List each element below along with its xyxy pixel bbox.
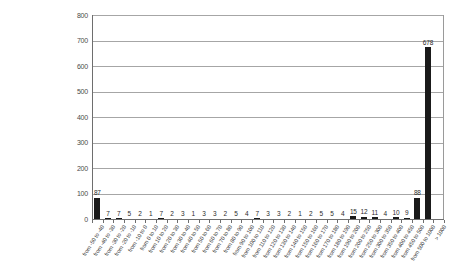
bar-slot: 11 bbox=[369, 15, 380, 220]
bar-value-label: 4 bbox=[384, 210, 387, 217]
x-tick-mark bbox=[391, 220, 392, 223]
bar-slot: 2 bbox=[305, 15, 316, 220]
x-tick-mark bbox=[327, 220, 328, 223]
bar-value-label: 5 bbox=[234, 210, 237, 217]
bar-slot: 15 bbox=[348, 15, 359, 220]
x-tick-mark bbox=[199, 220, 200, 223]
bar-value-label: 2 bbox=[309, 210, 312, 217]
x-axis-tick-labels: from -50 to -40from -40 to -30from -30 t… bbox=[92, 224, 444, 280]
bar-slot: 3 bbox=[209, 15, 220, 220]
bar-slot: 4 bbox=[380, 15, 391, 220]
y-tick-label-100: 100 bbox=[58, 190, 88, 197]
bar bbox=[94, 198, 100, 220]
bar-slot: 5 bbox=[231, 15, 242, 220]
x-tick-mark bbox=[359, 220, 360, 223]
x-tick-mark bbox=[124, 220, 125, 223]
y-tick-label-800: 800 bbox=[58, 12, 88, 19]
bar-slot: 7 bbox=[113, 15, 124, 220]
bars-layer: 8777521723133254733212554151211410988678 bbox=[92, 15, 444, 220]
y-tick-label-200: 200 bbox=[58, 165, 88, 172]
y-tick-label-300: 300 bbox=[58, 139, 88, 146]
bar-value-label: 1 bbox=[149, 210, 152, 217]
bar-slot: 1 bbox=[145, 15, 156, 220]
x-tick-mark bbox=[337, 220, 338, 223]
bar-value-label: 2 bbox=[224, 210, 227, 217]
x-tick-mark bbox=[177, 220, 178, 223]
bar-value-label: 5 bbox=[320, 210, 323, 217]
bar-value-label: 7 bbox=[106, 210, 109, 217]
bar-value-label: 3 bbox=[277, 210, 280, 217]
bar-value-label: 4 bbox=[245, 210, 248, 217]
histogram-chart: 8007006005004003002001000 87775217231332… bbox=[0, 0, 451, 280]
bar-value-label: 1 bbox=[298, 210, 301, 217]
bar-value-label: 3 bbox=[213, 210, 216, 217]
bar-value-label: 3 bbox=[181, 210, 184, 217]
bar-slot: 2 bbox=[135, 15, 146, 220]
x-tick-mark bbox=[209, 220, 210, 223]
bar-slot: 2 bbox=[220, 15, 231, 220]
x-tick-mark bbox=[92, 220, 93, 223]
y-tick-label-600: 600 bbox=[58, 63, 88, 70]
bar-value-label: 5 bbox=[128, 210, 131, 217]
x-tick-mark bbox=[305, 220, 306, 223]
bar-slot: 4 bbox=[241, 15, 252, 220]
bar-slot: 3 bbox=[177, 15, 188, 220]
y-tick-label-0: 0 bbox=[58, 216, 88, 223]
bar-slot: 3 bbox=[263, 15, 274, 220]
bar-slot: 7 bbox=[156, 15, 167, 220]
bar-slot: 5 bbox=[327, 15, 338, 220]
bar-slot: 88 bbox=[412, 15, 423, 220]
x-tick-mark bbox=[252, 220, 253, 223]
bar-slot: 5 bbox=[124, 15, 135, 220]
x-tick-mark bbox=[113, 220, 114, 223]
x-tick-mark bbox=[231, 220, 232, 223]
x-tick-mark bbox=[156, 220, 157, 223]
x-tick-mark bbox=[444, 220, 445, 223]
bar-value-label: 88 bbox=[414, 189, 421, 196]
x-tick-mark bbox=[380, 220, 381, 223]
bar-slot: 4 bbox=[337, 15, 348, 220]
bar-slot: 678 bbox=[423, 15, 434, 220]
bar-value-label: 12 bbox=[361, 208, 368, 215]
bar-value-label: 3 bbox=[266, 210, 269, 217]
bar-value-label: 9 bbox=[405, 209, 408, 216]
y-axis-tick-labels: 8007006005004003002001000 bbox=[52, 0, 88, 280]
bar-value-label: 3 bbox=[202, 210, 205, 217]
x-tick-mark bbox=[103, 220, 104, 223]
x-tick-mark bbox=[188, 220, 189, 223]
x-tick-mark bbox=[220, 220, 221, 223]
x-tick-mark bbox=[412, 220, 413, 223]
y-tick-label-400: 400 bbox=[58, 114, 88, 121]
bar-value-label: 4 bbox=[341, 210, 344, 217]
bar-slot: 87 bbox=[92, 15, 103, 220]
x-tick-mark bbox=[273, 220, 274, 223]
bar-slot: 3 bbox=[199, 15, 210, 220]
bar bbox=[414, 198, 420, 220]
bar-slot: 1 bbox=[295, 15, 306, 220]
x-tick-mark bbox=[167, 220, 168, 223]
bar-slot: 9 bbox=[401, 15, 412, 220]
x-tick-mark bbox=[135, 220, 136, 223]
bar-value-label: 2 bbox=[288, 210, 291, 217]
bar-slot: 7 bbox=[252, 15, 263, 220]
x-tick-mark bbox=[145, 220, 146, 223]
bar-value-label: 678 bbox=[423, 39, 433, 46]
x-tick-mark bbox=[241, 220, 242, 223]
x-tick-mark bbox=[423, 220, 424, 223]
y-tick-label-700: 700 bbox=[58, 37, 88, 44]
bar-value-label: 10 bbox=[393, 209, 400, 216]
bar-value-label: 7 bbox=[256, 210, 259, 217]
x-tick-mark bbox=[263, 220, 264, 223]
bar-value-label: 7 bbox=[160, 210, 163, 217]
y-tick-label-500: 500 bbox=[58, 88, 88, 95]
bar-value-label: 5 bbox=[330, 210, 333, 217]
x-tick-mark bbox=[348, 220, 349, 223]
bar-slot: 2 bbox=[284, 15, 295, 220]
bar-slot bbox=[433, 15, 444, 220]
x-tick-mark bbox=[316, 220, 317, 223]
bar-value-label: 2 bbox=[138, 210, 141, 217]
bar-slot: 3 bbox=[273, 15, 284, 220]
bar-value-label: 2 bbox=[170, 210, 173, 217]
x-tick-mark bbox=[295, 220, 296, 223]
x-tick-mark bbox=[401, 220, 402, 223]
